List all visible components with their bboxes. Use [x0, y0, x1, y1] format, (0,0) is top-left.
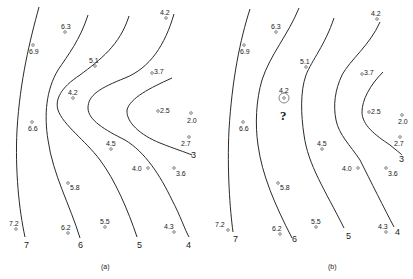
- svg-text:4.2: 4.2: [279, 87, 289, 94]
- data-point: 6.6: [239, 121, 249, 132]
- svg-text:3.7: 3.7: [154, 68, 164, 75]
- data-point: 5.5: [100, 218, 110, 228]
- contour-label-7: 7: [24, 240, 29, 250]
- data-point: 2.7: [181, 136, 191, 147]
- svg-text:4.0: 4.0: [342, 165, 352, 172]
- svg-text:7.2: 7.2: [215, 221, 225, 228]
- svg-text:2.5: 2.5: [371, 108, 381, 115]
- data-point: 3.6: [385, 167, 398, 177]
- data-point: 7.2: [215, 221, 229, 231]
- data-point: 5.8: [277, 182, 290, 191]
- data-point: 4.2: [160, 9, 170, 19]
- contour-label-4: 4: [395, 227, 400, 237]
- svg-text:2.5: 2.5: [160, 107, 170, 114]
- data-point: 6.2: [272, 225, 282, 235]
- data-point: 2.7: [394, 136, 404, 147]
- data-point: 6.3: [61, 23, 71, 33]
- svg-text:5.5: 5.5: [311, 218, 321, 225]
- data-point: 6.9: [240, 44, 250, 55]
- svg-text:6.3: 6.3: [61, 23, 71, 30]
- svg-text:2.0: 2.0: [398, 118, 408, 125]
- data-point: 3.7: [361, 69, 374, 76]
- svg-text:6.6: 6.6: [239, 125, 249, 132]
- svg-text:3.6: 3.6: [388, 170, 398, 177]
- data-point: 5.8: [67, 182, 80, 191]
- contour-diagram: 7 6 5 4 3 6.3 6.9 5.1 4.2 3.7 4.2 2.5 2.…: [0, 0, 413, 279]
- contour-line-4: [88, 14, 189, 237]
- data-point-queried: 4.2 ?: [279, 87, 289, 123]
- data-point: 3.7: [151, 68, 164, 75]
- svg-text:4.3: 4.3: [378, 223, 388, 230]
- svg-text:5.1: 5.1: [89, 57, 99, 64]
- data-point: 5.5: [311, 218, 321, 228]
- svg-text:6.2: 6.2: [61, 224, 71, 231]
- data-point: 5.1: [89, 57, 99, 67]
- svg-text:5.8: 5.8: [70, 184, 80, 191]
- contour-line-5: [57, 16, 137, 237]
- svg-text:4.5: 4.5: [317, 140, 327, 147]
- data-point: 4.0: [342, 165, 359, 172]
- svg-text:5.1: 5.1: [300, 58, 310, 65]
- contour-line-7: [16, 7, 39, 237]
- contour-label-3: 3: [191, 150, 196, 160]
- data-point: 6.9: [29, 44, 39, 55]
- question-mark: ?: [280, 108, 287, 123]
- data-point: 2.5: [368, 108, 381, 115]
- panel-caption-b: (b): [328, 263, 337, 271]
- data-point: 4.5: [106, 140, 116, 150]
- svg-text:7.2: 7.2: [9, 220, 19, 227]
- svg-text:4.5: 4.5: [106, 140, 116, 147]
- data-point: 4.2: [68, 89, 78, 99]
- data-point: 2.0: [398, 114, 408, 125]
- panel-caption-a: (a): [101, 263, 110, 271]
- svg-text:6.6: 6.6: [28, 125, 38, 132]
- contour-label-4: 4: [186, 240, 191, 250]
- svg-text:6.2: 6.2: [272, 225, 282, 232]
- data-point: 2.0: [187, 112, 197, 124]
- svg-text:3.7: 3.7: [364, 69, 374, 76]
- data-point: 6.3: [271, 23, 281, 33]
- svg-text:6.9: 6.9: [240, 48, 250, 55]
- svg-text:2.7: 2.7: [181, 140, 191, 147]
- panel-b: 7 6 5 4 3 6.3 6.9 5.1 4.2 3.7 4.2 ? 2.5 …: [215, 8, 408, 271]
- svg-text:4.2: 4.2: [371, 10, 381, 17]
- contour-label-7: 7: [233, 234, 238, 244]
- contour-line-6: [256, 8, 299, 238]
- contour-line-5: [302, 18, 344, 228]
- svg-text:3.6: 3.6: [176, 170, 186, 177]
- svg-text:4.0: 4.0: [132, 165, 142, 172]
- data-point: 6.6: [28, 121, 38, 132]
- data-point: 3.6: [173, 167, 186, 177]
- data-point: 4.3: [164, 223, 175, 233]
- svg-text:6.3: 6.3: [271, 23, 281, 30]
- contour-line-6: [46, 15, 88, 238]
- contour-label-5: 5: [137, 240, 142, 250]
- contour-label-3: 3: [399, 154, 404, 164]
- panel-a: 7 6 5 4 3 6.3 6.9 5.1 4.2 3.7 4.2 2.5 2.…: [9, 7, 197, 271]
- data-point: 4.2: [371, 10, 381, 20]
- data-point: 6.2: [61, 224, 71, 234]
- contour-label-5: 5: [346, 231, 351, 241]
- highlight-circle: [279, 93, 289, 103]
- data-point: 7.2: [9, 220, 19, 230]
- svg-text:4.3: 4.3: [164, 223, 174, 230]
- data-point: 4.0: [132, 165, 149, 172]
- contour-label-6: 6: [78, 240, 83, 250]
- svg-text:2.0: 2.0: [187, 117, 197, 124]
- svg-text:4.2: 4.2: [160, 9, 170, 16]
- contour-line-7: [228, 9, 250, 232]
- contour-label-6: 6: [292, 234, 297, 244]
- contour-line-4: [335, 22, 394, 227]
- data-point: 4.5: [317, 140, 327, 150]
- svg-text:6.9: 6.9: [29, 48, 39, 55]
- svg-text:4.2: 4.2: [68, 89, 78, 96]
- svg-text:2.7: 2.7: [394, 140, 404, 147]
- svg-text:5.8: 5.8: [280, 184, 290, 191]
- data-point: 4.3: [378, 223, 388, 233]
- svg-text:5.5: 5.5: [100, 218, 110, 225]
- data-point: 5.1: [300, 58, 310, 68]
- data-point: 2.5: [157, 107, 170, 114]
